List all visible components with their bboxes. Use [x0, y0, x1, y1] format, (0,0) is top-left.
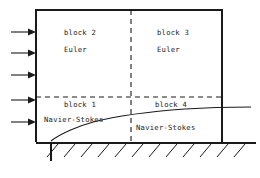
hatch-line [200, 144, 211, 157]
block-2-equations: Euler [64, 45, 87, 54]
block-1-name: block 1 [64, 100, 96, 109]
block-3-equations: Euler [157, 45, 180, 54]
hatch-line [81, 144, 92, 157]
inflow-arrow-group [11, 29, 36, 126]
block-3-name: block 3 [157, 28, 189, 37]
hatch-line [64, 144, 75, 157]
hatch-line [149, 144, 160, 157]
hatch-line [183, 144, 194, 157]
figure-canvas: block 2 Euler block 3 Euler block 1 Navi… [0, 0, 260, 178]
inflow-arrow-head [28, 97, 36, 104]
hatch-line [217, 144, 228, 157]
block-3-labels: block 3 Euler [157, 28, 189, 54]
block-4-labels: block 4 Navier-Stokes [136, 100, 196, 132]
hatch-line [98, 144, 109, 157]
schematic-diagram: block 2 Euler block 3 Euler block 1 Navi… [0, 0, 260, 178]
block-4-equations: Navier-Stokes [136, 123, 196, 132]
inflow-arrow-3 [11, 72, 36, 79]
hatch-line [166, 144, 177, 157]
hatch-line [115, 144, 126, 157]
block-2-name: block 2 [64, 28, 96, 37]
block-1-equations: Navier-Stokes [44, 115, 104, 124]
inflow-arrow-head [28, 29, 36, 36]
block-1-labels: block 1 Navier-Stokes [44, 100, 104, 124]
inflow-arrow-5 [11, 119, 36, 126]
block-4-name: block 4 [155, 100, 187, 109]
wall-group [36, 143, 256, 161]
hatch-line [234, 144, 245, 157]
wall-hatching [47, 144, 245, 157]
inflow-arrow-head [28, 119, 36, 126]
inflow-arrow-1 [11, 29, 36, 36]
inflow-arrow-2 [11, 50, 36, 57]
block-2-labels: block 2 Euler [64, 28, 96, 54]
hatch-line [132, 144, 143, 157]
inflow-arrow-4 [11, 97, 36, 104]
hatch-line [47, 144, 58, 157]
inflow-arrow-head [28, 50, 36, 57]
inflow-arrow-head [28, 72, 36, 79]
